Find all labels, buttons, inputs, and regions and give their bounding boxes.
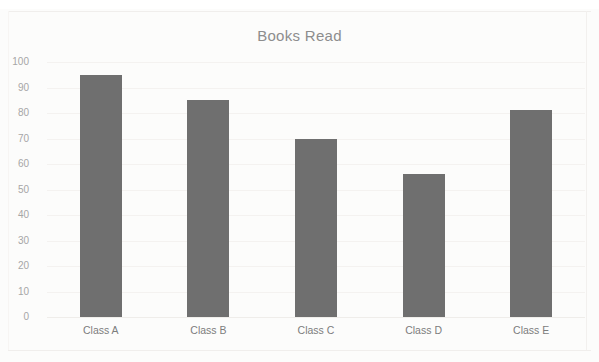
y-axis-tick-label: 60 xyxy=(0,159,29,169)
y-axis-tick-label: 80 xyxy=(0,108,29,118)
x-axis-category-label: Class A xyxy=(47,324,155,336)
gridline xyxy=(47,62,585,63)
y-axis-tick-label: 40 xyxy=(0,210,29,220)
x-axis-category-label: Class D xyxy=(370,324,478,336)
y-axis-tick-label: 30 xyxy=(0,236,29,246)
y-axis-tick-label: 10 xyxy=(0,287,29,297)
bar[interactable] xyxy=(187,100,229,317)
bar[interactable] xyxy=(403,174,445,317)
chart-title: Books Read xyxy=(0,27,599,44)
y-axis-tick-label: 20 xyxy=(0,261,29,271)
gridline xyxy=(47,317,585,318)
chart-container: Books Read 1009080706050403020100 Class … xyxy=(0,0,599,362)
chart-border-top xyxy=(8,11,591,12)
x-axis-category-label: Class E xyxy=(477,324,585,336)
x-axis-category-label: Class B xyxy=(155,324,263,336)
bar[interactable] xyxy=(295,139,337,318)
gridline xyxy=(47,88,585,89)
y-axis-tick-label: 0 xyxy=(0,312,29,322)
y-axis-tick-label: 70 xyxy=(0,134,29,144)
plot-area: 1009080706050403020100 xyxy=(47,62,585,317)
gridline xyxy=(47,113,585,114)
x-axis-category-label: Class C xyxy=(262,324,370,336)
bar[interactable] xyxy=(510,110,552,317)
chart-border-right xyxy=(586,11,587,351)
y-axis-tick-label: 90 xyxy=(0,83,29,93)
scan-artifact-top xyxy=(0,0,599,9)
chart-border-bottom xyxy=(8,350,591,351)
y-axis-tick-label: 100 xyxy=(0,57,29,67)
y-axis-tick-label: 50 xyxy=(0,185,29,195)
bar[interactable] xyxy=(80,75,122,317)
